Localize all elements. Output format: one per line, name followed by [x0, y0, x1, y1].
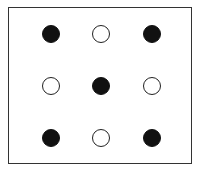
filled-circle-icon: [42, 25, 60, 43]
filled-circle-icon: [143, 129, 161, 147]
empty-circle-icon: [42, 77, 60, 95]
empty-circle-icon: [92, 25, 110, 43]
empty-circle-icon: [143, 77, 161, 95]
filled-circle-icon: [143, 25, 161, 43]
filled-circle-icon: [42, 129, 60, 147]
empty-circle-icon: [92, 129, 110, 147]
filled-circle-icon: [92, 77, 110, 95]
